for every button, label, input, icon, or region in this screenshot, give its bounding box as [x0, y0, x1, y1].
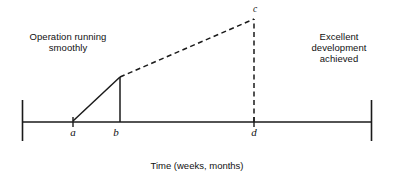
left-annotation: Operation running smoothly	[8, 31, 128, 53]
progress-diagram: Operation running smoothly Excellent dev…	[0, 0, 395, 183]
actual-progress-line	[73, 77, 120, 121]
point-label-b: b	[108, 126, 124, 138]
point-label-d: d	[246, 126, 262, 138]
right-annotation: Excellent development achieved	[292, 31, 386, 64]
axis-title: Time (weeks, months)	[97, 160, 297, 171]
diagram-canvas	[0, 0, 395, 183]
projected-progress-line	[120, 19, 254, 77]
point-label-a: a	[65, 126, 81, 138]
point-label-c: c	[247, 3, 263, 15]
